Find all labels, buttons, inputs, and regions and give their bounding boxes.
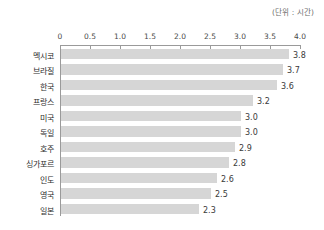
x-tick-label: 3.5 <box>264 32 276 41</box>
x-tick-label: 0.5 <box>84 32 96 41</box>
bar-row: 일본2.3 <box>60 202 300 218</box>
bar-row: 호주2.9 <box>60 140 300 156</box>
bar <box>61 80 277 91</box>
bar-row: 브라질3.7 <box>60 63 300 79</box>
x-tick-label: 1.5 <box>144 32 156 41</box>
bar <box>61 126 241 137</box>
plot-area: 00.51.01.52.02.53.03.54.0 멕시코3.8브라질3.7한국… <box>60 45 300 216</box>
value-label: 3.0 <box>245 112 258 121</box>
value-label: 3.2 <box>257 97 270 106</box>
category-label: 브라질 <box>33 65 54 76</box>
value-label: 2.9 <box>239 143 252 152</box>
bar <box>61 142 235 153</box>
category-label: 독일 <box>40 127 54 138</box>
x-tick-label: 2.0 <box>174 32 186 41</box>
bar-chart: (단위 : 시간) 00.51.01.52.02.53.03.54.0 멕시코3… <box>0 0 324 230</box>
bar <box>61 173 217 184</box>
bar-row: 인도2.6 <box>60 171 300 187</box>
value-label: 2.6 <box>221 174 234 183</box>
value-label: 2.3 <box>203 205 216 214</box>
bar-row: 독일3.0 <box>60 125 300 141</box>
bar-row: 멕시코3.8 <box>60 47 300 63</box>
x-tick-4.0 <box>300 45 301 49</box>
bar <box>61 95 253 106</box>
category-label: 멕시코 <box>33 49 54 60</box>
category-label: 호주 <box>40 142 54 153</box>
bar <box>61 64 283 75</box>
x-tick-label: 2.5 <box>204 32 216 41</box>
bar <box>61 188 211 199</box>
bar <box>61 204 199 215</box>
value-label: 2.5 <box>215 190 228 199</box>
x-tick-label: 4.0 <box>294 32 306 41</box>
category-label: 인도 <box>40 173 54 184</box>
unit-note: (단위 : 시간) <box>272 6 314 17</box>
x-tick-label: 0 <box>58 32 63 41</box>
value-label: 3.7 <box>287 66 300 75</box>
category-label: 영국 <box>40 189 54 200</box>
value-label: 3.0 <box>245 128 258 137</box>
value-label: 3.8 <box>293 50 306 59</box>
x-tick-label: 1.0 <box>114 32 126 41</box>
category-label: 일본 <box>40 204 54 215</box>
bar-row: 한국3.6 <box>60 78 300 94</box>
bar <box>61 157 229 168</box>
bar-row: 미국3.0 <box>60 109 300 125</box>
bar <box>61 49 289 60</box>
x-tick-label: 3.0 <box>234 32 246 41</box>
category-label: 한국 <box>40 80 54 91</box>
category-label: 프랑스 <box>33 96 54 107</box>
category-label: 미국 <box>40 111 54 122</box>
bar-row: 싱가포르2.8 <box>60 156 300 172</box>
value-label: 2.8 <box>233 159 246 168</box>
bar-row: 프랑스3.2 <box>60 94 300 110</box>
bar-row: 영국2.5 <box>60 187 300 203</box>
value-label: 3.6 <box>281 81 294 90</box>
bar <box>61 111 241 122</box>
category-label: 싱가포르 <box>26 158 54 169</box>
